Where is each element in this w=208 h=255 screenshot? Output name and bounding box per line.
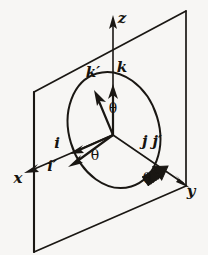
j-jprime-vector-label: j j′ (139, 132, 162, 150)
theta-label-top: θ (109, 100, 117, 116)
plane-edge-top (34, 11, 186, 92)
i-vector-label: i (54, 134, 60, 152)
vector-rotation-figure: x y z k k′ i i′ j j′ θ θ θ (0, 0, 208, 255)
z-axis-label: z (117, 9, 127, 27)
theta-label-right: θ (143, 170, 151, 186)
plane-edge-bottom (34, 186, 186, 252)
reference-plane (34, 11, 186, 252)
theta-label-left: θ (91, 147, 99, 163)
i-prime-vector-label: i′ (47, 157, 57, 175)
y-axis-label: y (186, 182, 197, 200)
figure-canvas: x y z k k′ i i′ j j′ θ θ θ (0, 0, 208, 255)
k-prime-vector-label: k′ (86, 63, 100, 81)
k-vector-label: k (117, 58, 127, 76)
x-axis-label: x (13, 169, 24, 187)
